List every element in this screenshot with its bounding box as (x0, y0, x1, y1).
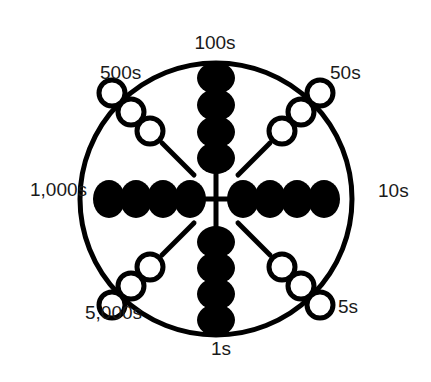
stub-50s (238, 143, 270, 175)
bead-filled (174, 180, 206, 218)
bead-open (99, 80, 125, 106)
stub-500s (162, 143, 194, 175)
bead-group-1000s (93, 180, 206, 218)
radial-bead-diagram: 100s 1s 1,000s 10s 500s 50s 5,000s 5s (0, 0, 431, 382)
spoke-label-10s: 10s (378, 181, 409, 200)
bead-filled (197, 142, 235, 174)
bead-group-1s (197, 226, 235, 336)
stub-5s (238, 223, 270, 255)
spoke-label-5s: 5s (338, 297, 358, 316)
spoke-label-100s: 100s (194, 33, 235, 52)
bead-group-100s (197, 62, 235, 174)
bead-filled (308, 180, 340, 218)
spoke-label-50s: 50s (330, 63, 361, 82)
spoke-label-500s: 500s (100, 63, 141, 82)
stub-5000s (162, 223, 194, 255)
spoke-label-1000s: 1,000s (30, 180, 87, 199)
bead-group-10s (227, 180, 340, 218)
bead-filled (197, 304, 235, 336)
spoke-label-5000s: 5,000s (85, 303, 142, 322)
spoke-label-1s: 1s (211, 339, 231, 358)
bead-open (307, 80, 333, 106)
bead-open (307, 292, 333, 318)
